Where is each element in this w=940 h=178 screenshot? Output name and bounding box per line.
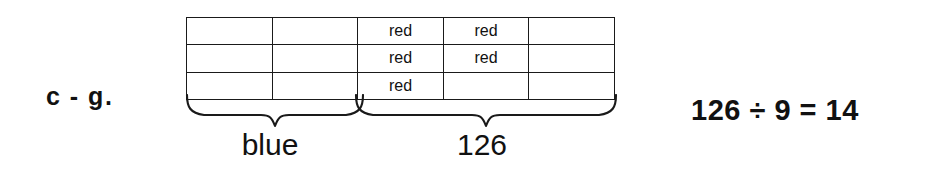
table-row: red red — [187, 18, 615, 45]
grid-cell-r1c2 — [272, 18, 358, 45]
grid-cell-r1c1 — [187, 18, 273, 45]
grid-cell-r2c2 — [272, 45, 358, 72]
brace-label-blue: blue — [210, 128, 330, 162]
brace-blue — [182, 94, 368, 128]
equation-block: 126 ÷ 9 = 14 14 × 5 = 70 — [691, 18, 859, 178]
brace-126 — [351, 94, 621, 128]
table-row: red red — [187, 45, 615, 72]
grid-cell-r2c1 — [187, 45, 273, 72]
grid-cell-r1c4: red — [443, 18, 529, 45]
curly-brace-icon — [351, 94, 621, 128]
grid-table: red red red red red — [186, 17, 615, 100]
grid-cell-r1c5 — [529, 18, 615, 45]
grid-cell-r2c3: red — [358, 45, 444, 72]
grid-cell-r1c3: red — [358, 18, 444, 45]
curly-brace-icon — [182, 94, 368, 128]
grid-cell-r2c4: red — [443, 45, 529, 72]
problem-label: c - g. — [46, 82, 113, 111]
brace-label-126: 126 — [422, 128, 542, 162]
equation-line-1: 126 ÷ 9 = 14 — [691, 92, 859, 129]
grid-cell-r2c5 — [529, 45, 615, 72]
worksheet-figure: c - g. red red red red red — [0, 0, 940, 178]
